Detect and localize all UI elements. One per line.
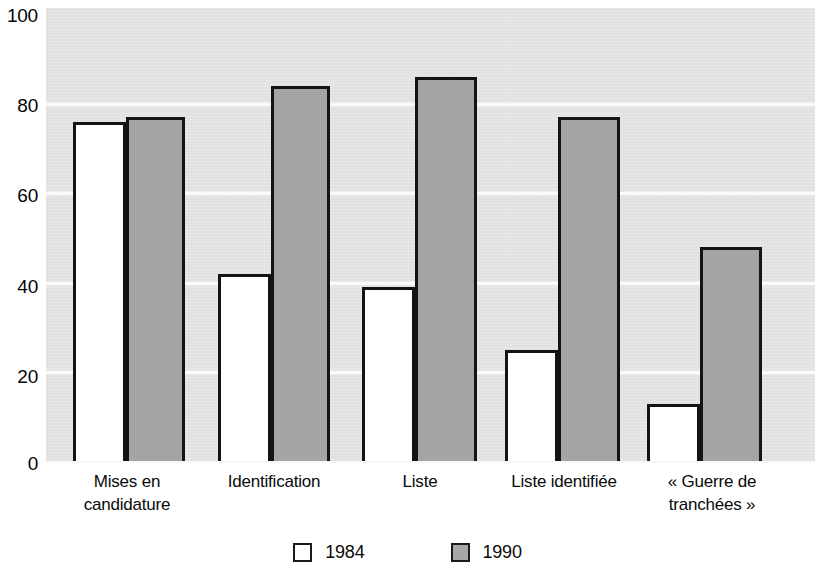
- y-axis: 100 80 60 40 20 0: [0, 0, 46, 478]
- bar-1984-identification[interactable]: [218, 274, 271, 462]
- x-label-liste: Liste: [344, 470, 496, 493]
- bars-layer: [46, 8, 815, 462]
- bar-1990-liste[interactable]: [415, 77, 477, 462]
- legend-swatch-grey-icon: [451, 543, 470, 562]
- x-label-guerre-de-tranchees: « Guerre de tranchées »: [632, 470, 792, 516]
- legend-label-1984: 1984: [325, 543, 364, 561]
- bar-1990-liste-identifiee[interactable]: [558, 117, 620, 462]
- bar-1990-mises-en-candidature[interactable]: [126, 117, 185, 462]
- legend-entry-1984[interactable]: 1984: [293, 543, 364, 562]
- x-axis-baseline: [46, 461, 815, 463]
- x-label-mises-en-candidature: Mises en candidature: [52, 470, 202, 516]
- bar-1984-liste-identifiee[interactable]: [505, 350, 558, 462]
- bar-chart-figure: 100 80 60 40 20 0: [0, 0, 815, 568]
- y-tick-label-0: 0: [28, 454, 38, 473]
- legend-entry-1990[interactable]: 1990: [451, 543, 522, 562]
- plot-area: [46, 8, 815, 462]
- y-tick-label-100: 100: [7, 6, 38, 25]
- x-label-identification: Identification: [198, 470, 350, 493]
- y-tick-label-60: 60: [17, 186, 38, 205]
- legend-label-1990: 1990: [483, 543, 522, 561]
- x-label-liste-identifiee: Liste identifiée: [486, 470, 642, 493]
- bar-1984-guerre-de-tranchees[interactable]: [647, 404, 700, 462]
- y-tick-label-80: 80: [17, 96, 38, 115]
- bar-1984-liste[interactable]: [362, 287, 415, 462]
- legend: 1984 1990: [0, 536, 815, 568]
- bar-1984-mises-en-candidature[interactable]: [73, 122, 126, 462]
- y-tick-label-40: 40: [17, 277, 38, 296]
- x-axis-labels: Mises en candidature Identification List…: [46, 470, 815, 526]
- legend-swatch-white-icon: [293, 543, 312, 562]
- bar-1990-guerre-de-tranchees[interactable]: [700, 247, 762, 462]
- bar-1990-identification[interactable]: [271, 86, 330, 462]
- y-tick-label-20: 20: [17, 367, 38, 386]
